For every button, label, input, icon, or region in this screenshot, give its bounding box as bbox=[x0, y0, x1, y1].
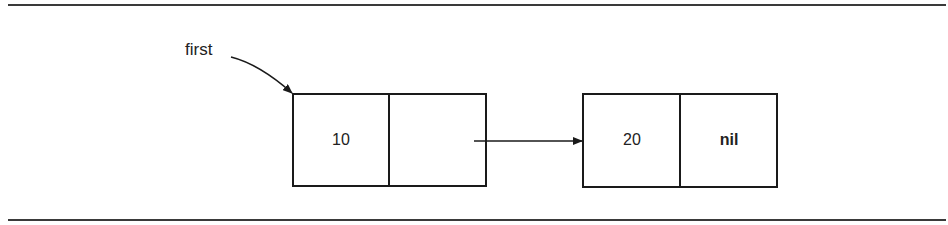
node-2-value: 20 bbox=[584, 131, 680, 149]
node-2-next-nil: nil bbox=[681, 131, 777, 149]
linked-list-diagram bbox=[0, 0, 948, 225]
first-pointer-arrow bbox=[231, 57, 292, 93]
bottom-rule bbox=[8, 219, 946, 221]
node-1-value: 10 bbox=[293, 131, 389, 149]
